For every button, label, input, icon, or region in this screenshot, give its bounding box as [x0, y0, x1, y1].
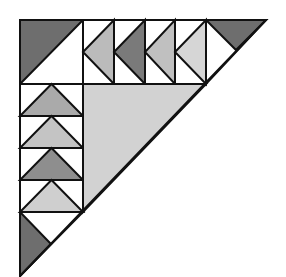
quilt-diagram: [0, 0, 286, 277]
corner-block: [20, 20, 83, 84]
center-triangle: [83, 84, 206, 212]
top-row-flying-geese: [83, 20, 206, 84]
center-light-triangle: [83, 84, 206, 212]
quilt-block-canvas: Flying geese half-triangle quilt block: [0, 0, 286, 277]
left-column-flying-geese: [20, 84, 83, 212]
